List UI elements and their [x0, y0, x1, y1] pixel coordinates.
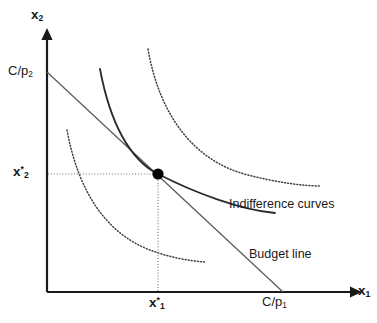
indifference-curves-annotation: Indifference curves	[229, 198, 334, 211]
x2-star-label: x*2	[13, 165, 29, 179]
y-axis-arrowhead	[41, 28, 52, 40]
indifference-curve-high	[148, 49, 320, 186]
economics-diagram: x2 x1 C/p2 C/p1 x*2 x*1 Indifference cur…	[0, 0, 377, 323]
y-intercept-label: C/p2	[8, 64, 33, 77]
y-axis-label: x2	[31, 8, 43, 22]
budget-line-annotation: Budget line	[249, 248, 312, 261]
axes-group	[41, 28, 362, 298]
optimum-point-marker	[152, 168, 163, 179]
x-intercept-label: C/p1	[262, 295, 287, 308]
indifference-curve-optimal	[100, 69, 275, 213]
x1-star-label: x*1	[149, 296, 165, 310]
optimum-guides	[48, 174, 158, 291]
indifference-curve-low	[67, 130, 205, 262]
diagram-canvas	[0, 0, 377, 323]
x-axis-label: x1	[358, 284, 370, 298]
